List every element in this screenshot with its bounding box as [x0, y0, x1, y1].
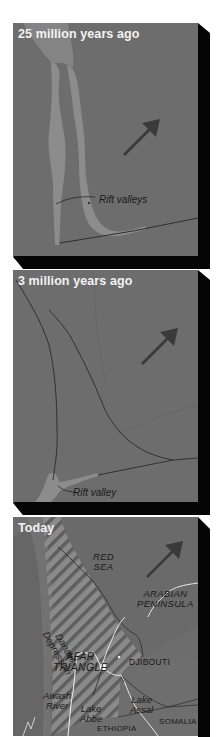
- map-graphic: [13, 517, 198, 736]
- plate-motion-arrow-icon: [141, 328, 178, 365]
- panel-3-million-years: 3 million years ago Rift valley: [13, 257, 210, 515]
- map-graphic: [13, 23, 198, 256]
- rift-valleys-label: Rift valleys: [99, 195, 147, 205]
- panel-shadow: [13, 503, 210, 515]
- panel-shadow: [198, 23, 210, 269]
- ethiopia-label: ETHIOPIA: [97, 724, 137, 734]
- lake-abbe-label: Lake Abbe: [80, 704, 102, 724]
- map-panel: Today RED SEA ARABIAN PENINSULA Danakil …: [13, 517, 198, 736]
- map-panel: 25 million years ago Rift valleys: [13, 23, 198, 256]
- panel-25-million-years: 25 million years ago Rift valleys: [13, 23, 210, 269]
- panel-shadow: [13, 257, 210, 268]
- panel-title: Today: [18, 521, 54, 535]
- red-sea-label: RED SEA: [93, 552, 114, 572]
- arabian-peninsula-label: ARABIAN PENINSULA: [137, 589, 194, 609]
- afar-triangle-label: AFAR TRIANGLE: [53, 651, 108, 673]
- lake-assal-label: Lake Assal: [130, 695, 153, 715]
- plate-motion-arrow-icon: [123, 119, 160, 156]
- djibouti-label: DJIBOUTI: [129, 657, 170, 667]
- panel-title: 25 million years ago: [18, 27, 140, 41]
- panel-shadow: [198, 517, 210, 737]
- awash-river-label: Awash River: [43, 691, 71, 711]
- panel-today: Today RED SEA ARABIAN PENINSULA Danakil …: [13, 503, 210, 737]
- panel-shadow: [198, 270, 210, 515]
- map-graphic: [13, 270, 198, 502]
- map-panel: 3 million years ago Rift valley: [13, 270, 198, 502]
- panel-title: 3 million years ago: [18, 274, 132, 288]
- rift-valley-label: Rift valley: [73, 488, 116, 498]
- somalia-label: SOMALIA: [159, 717, 197, 727]
